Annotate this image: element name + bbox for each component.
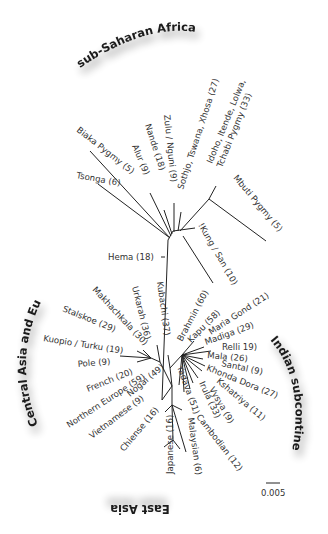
- leaf-mbuti: Mbuti Pygmy (5): [231, 173, 284, 234]
- region-label-europe: Central Asia and Europe: [0, 0, 44, 429]
- leaf-tsonga: Tsonga (6): [75, 170, 122, 188]
- leaf-hema: Hema (18): [108, 252, 154, 262]
- leaf-japanese: Japanese (16): [165, 415, 175, 475]
- leaf-relli: Relli 19): [222, 342, 257, 352]
- leaf-kuopio: Kuopio / Turku (19): [43, 333, 124, 356]
- leaf-kung: !Kung / San (10): [196, 221, 240, 287]
- scale-bar: 0.005: [261, 483, 285, 498]
- leaf-mala: Mala (26): [207, 350, 248, 364]
- leaf-sothjo: Sothjo, Tswana, Xhosa (27): [175, 77, 220, 191]
- leaf-kubachi: Kubachi (37): [155, 281, 172, 336]
- leaf-zulu: Zulu / Nguni (9): [162, 114, 179, 182]
- phylogenetic-tree: sub-Saharan Africa Central Asia and Euro…: [0, 0, 328, 534]
- region-label-africa: sub-Saharan Africa: [74, 20, 197, 71]
- region-label-eastasia: East Asia: [110, 502, 169, 516]
- leaf-pole: Pole (9): [77, 356, 110, 369]
- scale-bar-label: 0.005: [261, 488, 285, 498]
